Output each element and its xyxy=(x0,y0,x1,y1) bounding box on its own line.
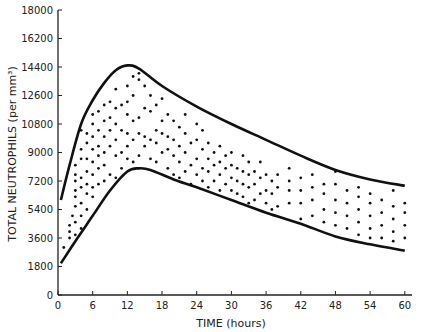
data-point xyxy=(392,240,395,243)
data-point xyxy=(242,170,245,173)
data-point xyxy=(380,224,383,227)
data-point xyxy=(143,107,146,110)
data-point xyxy=(103,135,106,138)
data-point xyxy=(149,110,152,113)
data-point xyxy=(184,132,187,135)
data-point xyxy=(259,176,262,179)
data-point xyxy=(74,195,77,198)
data-point xyxy=(334,199,337,202)
data-point xyxy=(357,186,360,189)
data-point xyxy=(138,154,141,157)
data-point xyxy=(74,205,77,208)
data-point xyxy=(132,75,135,78)
data-point xyxy=(86,132,89,135)
data-point xyxy=(161,151,164,154)
data-point xyxy=(218,189,221,192)
data-point xyxy=(91,135,94,138)
data-point xyxy=(178,126,181,129)
data-point xyxy=(103,180,106,183)
data-point xyxy=(109,100,112,103)
data-point xyxy=(91,123,94,126)
data-point xyxy=(213,180,216,183)
data-point xyxy=(120,151,123,154)
data-point xyxy=(132,94,135,97)
data-point xyxy=(392,189,395,192)
data-point xyxy=(403,202,406,205)
data-point xyxy=(230,151,233,154)
data-point xyxy=(224,183,227,186)
data-point xyxy=(224,154,227,157)
data-point xyxy=(178,145,181,148)
data-point xyxy=(265,189,268,192)
data-point xyxy=(369,202,372,205)
data-point xyxy=(161,132,164,135)
x-tick-label: 12 xyxy=(121,300,134,311)
data-point xyxy=(103,164,106,167)
data-point xyxy=(109,173,112,176)
data-point xyxy=(322,183,325,186)
data-point xyxy=(91,195,94,198)
data-point xyxy=(357,233,360,236)
data-point xyxy=(392,218,395,221)
data-point xyxy=(334,170,337,173)
data-point xyxy=(299,189,302,192)
y-tick-label: 16200 xyxy=(21,33,53,44)
data-point xyxy=(346,214,349,217)
data-point xyxy=(322,221,325,224)
data-point xyxy=(276,205,279,208)
y-tick-label: 0 xyxy=(47,290,53,301)
x-tick-label: 30 xyxy=(225,300,238,311)
data-point xyxy=(184,170,187,173)
data-point xyxy=(149,157,152,160)
data-point xyxy=(334,211,337,214)
y-axis-ticks: 0180036005400720090001080012600144001620… xyxy=(21,5,62,301)
data-point xyxy=(230,189,233,192)
data-point xyxy=(80,176,83,179)
envelope-curves xyxy=(61,65,405,263)
data-points xyxy=(62,72,406,249)
data-point xyxy=(143,85,146,88)
data-point xyxy=(288,202,291,205)
data-point xyxy=(184,113,187,116)
data-point xyxy=(299,202,302,205)
x-tick-label: 0 xyxy=(55,300,61,311)
data-point xyxy=(74,180,77,183)
data-point xyxy=(201,148,204,151)
data-point xyxy=(132,119,135,122)
data-point xyxy=(80,186,83,189)
data-point xyxy=(236,167,239,170)
data-point xyxy=(322,208,325,211)
data-point xyxy=(207,157,210,160)
y-tick-label: 5400 xyxy=(28,204,53,215)
data-point xyxy=(334,183,337,186)
data-point xyxy=(97,145,100,148)
y-axis-label: TOTAL NEUTROPHILS (per mm³) xyxy=(6,66,19,243)
data-point xyxy=(346,227,349,230)
data-point xyxy=(80,157,83,160)
data-point xyxy=(311,199,314,202)
data-point xyxy=(161,119,164,122)
data-point xyxy=(80,214,83,217)
y-tick-label: 10800 xyxy=(21,119,53,130)
data-point xyxy=(270,208,273,211)
data-point xyxy=(120,129,123,132)
data-point xyxy=(97,167,100,170)
data-point xyxy=(247,186,250,189)
data-point xyxy=(155,104,158,107)
data-point xyxy=(97,110,100,113)
y-tick-label: 14400 xyxy=(21,62,53,73)
data-point xyxy=(247,161,250,164)
data-point xyxy=(201,167,204,170)
y-tick-label: 18000 xyxy=(21,5,53,16)
data-point xyxy=(190,164,193,167)
data-point xyxy=(357,221,360,224)
data-point xyxy=(299,218,302,221)
data-point xyxy=(178,176,181,179)
y-tick-label: 12600 xyxy=(21,90,53,101)
data-point xyxy=(86,142,89,145)
data-point xyxy=(114,176,117,179)
upper-envelope-curve xyxy=(61,65,405,200)
data-point xyxy=(247,173,250,176)
data-point xyxy=(190,183,193,186)
data-point xyxy=(126,100,129,103)
